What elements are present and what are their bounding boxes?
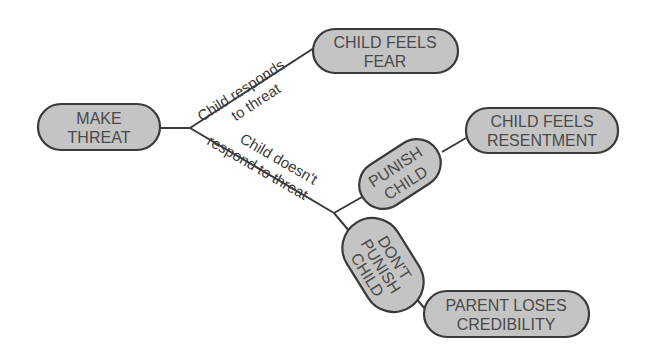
node-label-line2: THREAT	[68, 129, 131, 146]
node-label-line1: CHILD FEELS	[333, 34, 436, 51]
node-label-line2: CREDIBILITY	[457, 316, 556, 333]
node-label-line1: CHILD FEELS	[490, 113, 593, 130]
node-label-line2: FEAR	[364, 53, 407, 70]
node-dont-punish-child: DON'T PUNISH CHILD	[331, 207, 435, 324]
decision-tree-diagram: Child responds to threat Child doesn't r…	[0, 0, 649, 362]
node-label-line1: MAKE	[76, 110, 121, 127]
node-child-feels-resentment: CHILD FEELS RESENTMENT	[466, 108, 618, 153]
node-parent-loses-credibility: PARENT LOSES CREDIBILITY	[424, 291, 589, 337]
edge-punish-to-resentment	[442, 138, 466, 152]
edge-label-not-respond: Child doesn't respond to threat	[204, 116, 321, 204]
node-child-feels-fear: CHILD FEELS FEAR	[313, 29, 458, 73]
edge-to-punish	[334, 197, 362, 213]
edge-label-responds: Child responds to threat	[194, 56, 297, 140]
node-make-threat: MAKE THREAT	[38, 104, 160, 150]
node-label-line2: RESENTMENT	[487, 132, 597, 149]
node-label-line1: PARENT LOSES	[445, 297, 566, 314]
node-punish-child: PUNISH CHILD	[350, 130, 450, 218]
